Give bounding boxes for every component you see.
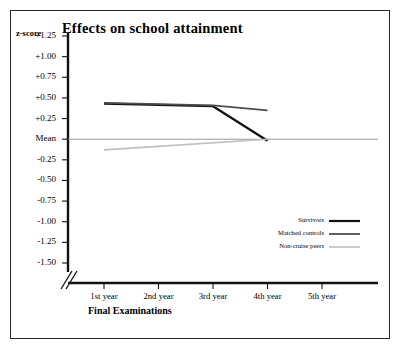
- plot-area: [0, 0, 402, 351]
- axis-break-mark: [61, 271, 72, 289]
- chart-figure: Effects on school attainment z-score Fin…: [0, 0, 402, 351]
- axis-break-mark: [66, 271, 77, 289]
- series-line-0: [104, 104, 268, 141]
- series-line-2: [104, 139, 268, 150]
